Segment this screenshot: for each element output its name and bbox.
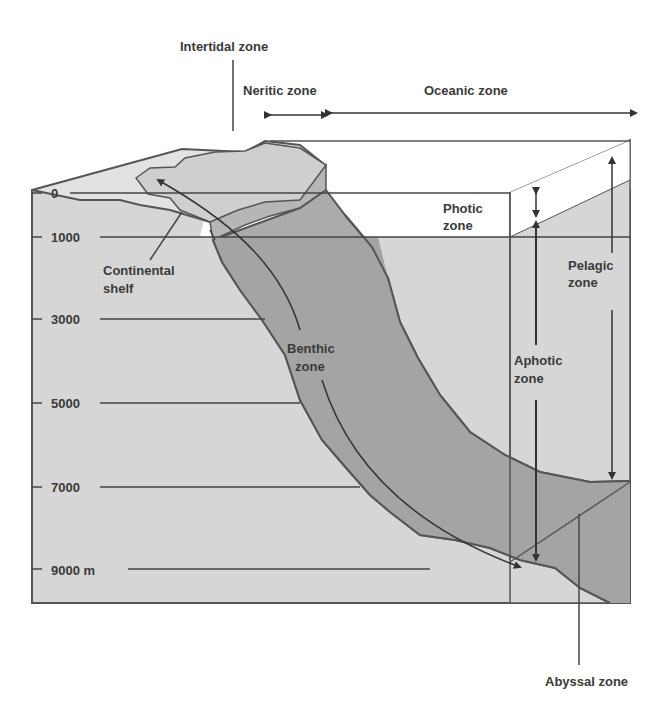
continental-shelf-label-1: Continental <box>103 262 175 279</box>
aphotic-zone-label-2: zone <box>514 370 544 387</box>
depth-label-5000: 5000 <box>51 396 80 411</box>
oceanic-zone-label: Oceanic zone <box>424 82 508 99</box>
depth-label-3000: 3000 <box>51 312 80 327</box>
intertidal-zone-label: Intertidal zone <box>180 38 268 55</box>
continental-shelf-label-2: shelf <box>103 280 133 297</box>
benthic-zone-label-2: zone <box>295 358 325 375</box>
benthic-zone-label-1: Benthic <box>287 340 335 357</box>
depth-label-1000: 1000 <box>51 230 80 245</box>
depth-label-9000: 9000 m <box>51 563 95 578</box>
photic-zone-label-2: zone <box>443 217 473 234</box>
pelagic-zone-label-1: Pelagic <box>568 257 614 274</box>
pelagic-zone-label-2: zone <box>568 274 598 291</box>
depth-label-7000: 7000 <box>51 480 80 495</box>
ocean-zones-diagram <box>0 0 672 717</box>
abyssal-zone-label: Abyssal zone <box>545 673 628 690</box>
depth-label-0: 0 <box>51 186 58 201</box>
neritic-zone-label: Neritic zone <box>243 82 317 99</box>
aphotic-zone-label-1: Aphotic <box>514 352 562 369</box>
photic-zone-label-1: Photic <box>443 200 483 217</box>
